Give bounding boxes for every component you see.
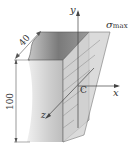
sigma-symbol: σ [106,19,113,30]
centroid-label: C [80,86,87,95]
y-axis-arrow [76,10,80,16]
height-dimension-label: 100 [6,93,15,110]
z-axis-label: z [41,111,46,120]
beam-side-face [27,60,63,142]
x-axis-label: x [113,88,119,98]
sigma-max-label: σmax [106,20,128,30]
sigma-subscript: max [113,22,128,30]
width-dim-arrow-bottom [15,53,20,59]
y-axis-label: y [70,5,76,15]
